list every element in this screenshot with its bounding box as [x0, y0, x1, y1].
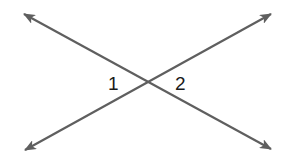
intersecting-lines-figure: 1 2	[0, 0, 287, 160]
diagram-canvas: 1 2	[0, 0, 287, 160]
angle-1-label: 1	[108, 73, 119, 94]
angle-2-label: 2	[175, 73, 186, 94]
